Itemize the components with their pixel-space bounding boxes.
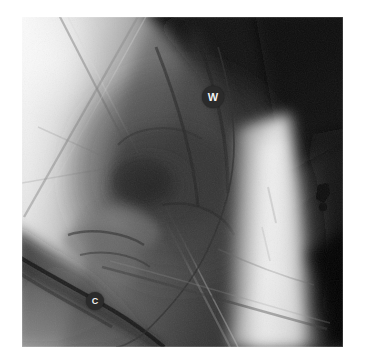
marker-w-label: W <box>208 92 218 103</box>
marker-w: W <box>202 86 224 108</box>
film-grain-overlay <box>22 17 343 347</box>
radiograph-canvas <box>22 17 343 347</box>
marker-c-label: C <box>92 297 99 306</box>
radiograph-figure: W C <box>0 0 366 364</box>
radiograph-image <box>22 17 343 347</box>
marker-c: C <box>86 292 104 310</box>
